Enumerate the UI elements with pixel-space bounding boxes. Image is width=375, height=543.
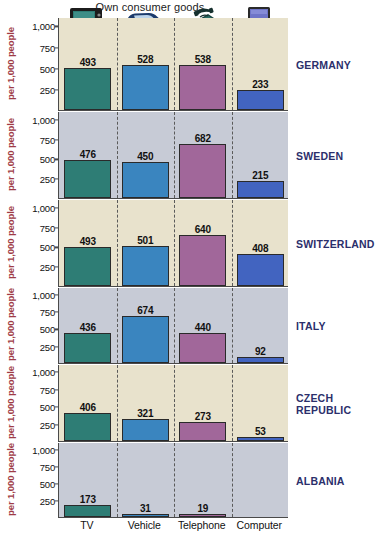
- y-tick-mark: [55, 89, 59, 90]
- country-label: SWEDEN: [296, 150, 343, 162]
- category-separator: [117, 443, 118, 517]
- y-tick-label: 500: [21, 402, 55, 413]
- category-separator: [117, 112, 118, 198]
- bar-telephone: [179, 514, 226, 517]
- bar-vehicle: [122, 514, 169, 517]
- category-label-computer: Computer: [231, 519, 289, 531]
- bar-tv: [64, 68, 111, 110]
- y-tick-label: 1,000: [21, 202, 55, 213]
- y-axis-caption: per 1,000 people: [5, 106, 16, 202]
- y-axis-ticks: 1,000750500250: [21, 365, 55, 441]
- bar-computer: [237, 357, 284, 363]
- bar-telephone: [179, 144, 226, 198]
- y-tick-label: 1,000: [21, 444, 55, 455]
- y-tick-mark: [55, 371, 59, 372]
- y-tick-mark: [55, 139, 59, 140]
- bar-value-label: 640: [179, 224, 227, 235]
- category-separator: [232, 200, 233, 286]
- y-tick-label: 750: [21, 384, 55, 395]
- bar-computer: [237, 181, 284, 198]
- y-tick-mark: [55, 119, 59, 120]
- bar-telephone: [179, 333, 226, 363]
- panel-albania: 1,0007505002501733119: [58, 443, 288, 518]
- bar-value-label: 682: [179, 133, 227, 144]
- country-label: ITALY: [296, 320, 326, 332]
- y-tick-label: 750: [21, 307, 55, 318]
- bar-tv: [64, 333, 111, 363]
- y-tick-mark: [55, 159, 59, 160]
- y-tick-mark: [55, 68, 59, 69]
- country-label-line: SWITZERLAND: [296, 238, 375, 250]
- bar-value-label: 493: [64, 236, 112, 247]
- y-axis-ticks: 1,000750500250: [21, 443, 55, 517]
- category-separator: [232, 443, 233, 517]
- category-separator: [232, 18, 233, 110]
- bar-value-label: 450: [121, 151, 169, 162]
- bar-computer: [237, 437, 284, 441]
- bar-value-label: 19: [179, 503, 227, 514]
- y-tick-mark: [55, 483, 59, 484]
- bar-vehicle: [122, 65, 169, 110]
- y-tick-label: 750: [21, 42, 55, 53]
- y-tick-mark: [55, 247, 59, 248]
- country-label-line: REPUBLIC: [296, 404, 351, 416]
- y-tick-mark: [55, 312, 59, 313]
- y-tick-label: 250: [21, 262, 55, 273]
- country-label: CZECHREPUBLIC: [296, 392, 351, 416]
- y-tick-label: 500: [21, 324, 55, 335]
- bar-value-label: 436: [64, 322, 112, 333]
- bar-value-label: 173: [64, 494, 112, 505]
- y-tick-mark: [55, 26, 59, 27]
- y-tick-label: 500: [21, 242, 55, 253]
- y-axis-ticks: 1,000750500250: [21, 200, 55, 286]
- country-label-line: GERMANY: [296, 59, 351, 71]
- panel-italy: 1,00075050025043667444092: [58, 288, 288, 364]
- bar-value-label: 406: [64, 402, 112, 413]
- bar-tv: [64, 413, 111, 441]
- bar-telephone: [179, 422, 226, 441]
- category-separator: [232, 288, 233, 363]
- y-tick-label: 500: [21, 478, 55, 489]
- bar-tv: [64, 247, 111, 286]
- y-axis-caption: per 1,000 people: [5, 431, 16, 527]
- category-separator: [174, 18, 175, 110]
- country-label: SWITZERLAND: [296, 238, 375, 250]
- y-tick-mark: [55, 424, 59, 425]
- y-axis-ticks: 1,000750500250: [21, 288, 55, 363]
- bar-value-label: 538: [179, 54, 227, 65]
- y-tick-label: 250: [21, 419, 55, 430]
- bar-vehicle: [122, 246, 169, 286]
- bar-value-label: 408: [236, 243, 284, 254]
- category-separator: [174, 288, 175, 363]
- bar-value-label: 440: [179, 322, 227, 333]
- panel-germany: 1,000750500250493528538233: [58, 18, 288, 111]
- category-separator: [174, 443, 175, 517]
- y-tick-label: 250: [21, 84, 55, 95]
- bar-computer: [237, 90, 284, 110]
- category-label-vehicle: Vehicle: [116, 519, 174, 531]
- bar-value-label: 501: [121, 235, 169, 246]
- panel-czech-republic: 1,00075050025040632127353: [58, 365, 288, 442]
- y-tick-mark: [55, 466, 59, 467]
- category-separator: [232, 365, 233, 441]
- y-tick-label: 500: [21, 63, 55, 74]
- bar-tv: [64, 160, 111, 198]
- bar-value-label: 273: [179, 411, 227, 422]
- category-separator: [174, 365, 175, 441]
- y-tick-mark: [55, 179, 59, 180]
- y-tick-label: 500: [21, 154, 55, 165]
- bar-value-label: 31: [121, 503, 169, 514]
- y-tick-label: 1,000: [21, 21, 55, 32]
- y-tick-label: 250: [21, 495, 55, 506]
- y-tick-label: 750: [21, 222, 55, 233]
- bar-value-label: 92: [236, 346, 284, 357]
- bar-computer: [237, 254, 284, 286]
- y-tick-label: 1,000: [21, 367, 55, 378]
- y-axis-caption: per 1,000 people: [5, 15, 16, 111]
- bar-vehicle: [122, 162, 169, 198]
- y-tick-mark: [55, 406, 59, 407]
- category-separator: [232, 112, 233, 198]
- panel-switzerland: 1,000750500250493501640408: [58, 200, 288, 287]
- y-tick-mark: [55, 227, 59, 228]
